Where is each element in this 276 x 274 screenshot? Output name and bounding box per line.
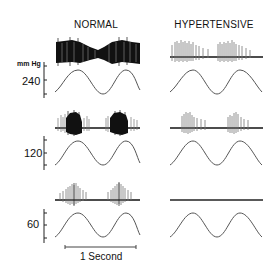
pressure-wave-hypertensive-240	[170, 70, 262, 94]
nerve-activity-hypertensive-240	[170, 40, 263, 62]
pressure-scale-240	[44, 62, 47, 98]
nerve-activity-normal-120	[55, 110, 140, 136]
pressure-scale-60	[44, 209, 47, 243]
pressure-wave-normal-240	[55, 70, 140, 94]
pressure-scale-120	[44, 136, 47, 170]
pressure-wave-hypertensive-120	[170, 141, 262, 165]
pressure-wave-normal-60	[55, 213, 140, 237]
figure-traces	[0, 0, 276, 274]
pressure-wave-normal-120	[55, 141, 140, 165]
nerve-activity-hypertensive-120	[170, 112, 263, 134]
time-scale-bar	[65, 245, 136, 249]
nerve-activity-normal-240	[56, 37, 140, 66]
pressure-wave-hypertensive-60	[170, 213, 262, 237]
nerve-activity-normal-60	[55, 182, 140, 206]
